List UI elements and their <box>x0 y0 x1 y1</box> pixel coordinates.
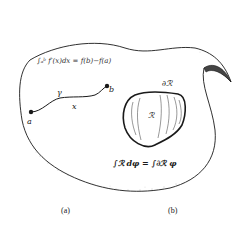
ftc-formula: ∫ₐᵇ f′(x)dx = f(b)−f(a) <box>37 58 111 65</box>
curve-gamma-label: γ <box>57 89 62 97</box>
curve-gamma <box>31 86 107 112</box>
stokes-theorem-figure: ∫ₐᵇ f′(x)dx = f(b)−f(a) a b γ x ∂ℛ ℛ ∫ℛ … <box>0 0 244 230</box>
endpoint-b-label: b <box>109 86 114 94</box>
caption-a: (a) <box>61 207 70 215</box>
stokes-formula: ∫ℛ dφ = ∫∂ℛ φ <box>113 159 176 167</box>
manifold-drawing <box>0 0 244 230</box>
point-a <box>29 110 33 114</box>
endpoint-a-label: a <box>27 118 32 126</box>
manifold-outline <box>20 43 231 191</box>
caption-b: (b) <box>168 207 177 215</box>
boundary-label: ∂ℛ <box>162 80 172 88</box>
region-label: ℛ <box>148 112 154 120</box>
tail-curl <box>204 65 231 82</box>
region-R <box>123 92 185 147</box>
variable-x-label: x <box>72 103 77 111</box>
